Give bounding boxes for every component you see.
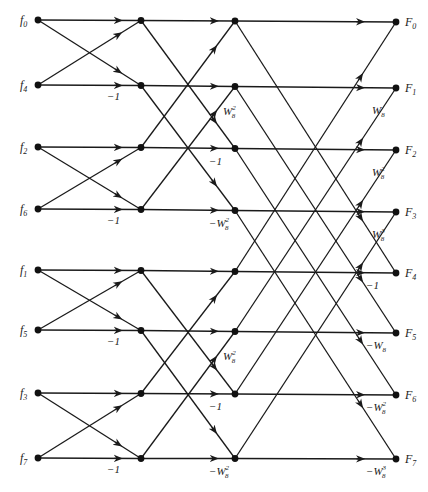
- edge-s1-0-0: [38, 20, 141, 21]
- output-label: F3: [404, 205, 416, 221]
- edge-s2-1-3-arrow: [212, 180, 214, 183]
- output-label: F4: [404, 266, 416, 282]
- node-s1-r4: [138, 267, 145, 274]
- edge-s3-3-7-arrow: [358, 401, 360, 404]
- edge-s3-5-1-arrow: [358, 142, 360, 145]
- edge-s3-3-3: [235, 211, 396, 213]
- node-s2-r3: [232, 207, 239, 214]
- node-s3-r4: [393, 270, 400, 277]
- weight-stage3: −1: [366, 279, 379, 291]
- edge-s1-5-4-arrow: [115, 284, 118, 286]
- node-s3-r5: [393, 330, 400, 337]
- input-label: f0: [20, 13, 27, 29]
- labels: f0f4f2f6f1f5f3f7F0F1F2F3F4F5F6F7−1−1−1−1…: [20, 13, 417, 480]
- weight-stage3: −W8: [366, 339, 387, 354]
- input-label: f1: [20, 263, 27, 279]
- node-s0-r2: [35, 144, 42, 151]
- node-s1-r5: [138, 327, 145, 334]
- edge-s2-7-5-arrow: [212, 359, 214, 362]
- edge-s3-6-6: [235, 394, 396, 395]
- edge-s1-5-5: [38, 330, 141, 331]
- node-s2-r0: [232, 18, 239, 25]
- weight-stage1: −1: [107, 90, 120, 102]
- node-s3-r3: [393, 209, 400, 216]
- edge-s2-6-4-arrow: [212, 298, 214, 301]
- output-label: F1: [404, 81, 416, 97]
- weight-stage1: −1: [107, 214, 120, 226]
- node-s2-r1: [232, 83, 239, 90]
- node-s1-r2: [138, 144, 145, 151]
- node-s2-r5: [232, 328, 239, 335]
- edge-s1-2-2: [38, 147, 141, 148]
- edge-s1-4-5-arrow: [115, 315, 118, 317]
- weight-stage3-cross: W38: [372, 227, 385, 243]
- edge-s1-6-6: [38, 393, 141, 394]
- edge-s3-2-2: [235, 149, 396, 151]
- weight-stage2: −W28: [209, 216, 230, 232]
- weight-stage1: −1: [107, 463, 120, 475]
- node-s3-r0: [393, 19, 400, 26]
- node-s2-r6: [232, 391, 239, 398]
- output-label: F2: [404, 143, 416, 159]
- weight-stage2-cross: W28: [223, 349, 236, 365]
- edge-s2-5-7-arrow: [212, 427, 214, 430]
- node-s3-r7: [393, 456, 400, 463]
- edge-s2-3-1-arrow: [212, 114, 214, 117]
- edge-s3-1-1: [235, 87, 396, 89]
- edge-s3-7-3-arrow: [358, 266, 360, 269]
- edge-s1-7-7: [38, 458, 141, 459]
- input-label: f2: [20, 140, 27, 156]
- node-s2-r2: [232, 145, 239, 152]
- edge-s3-0-0: [235, 21, 396, 22]
- edge-s1-7-6-arrow: [115, 408, 118, 410]
- output-label: F0: [404, 15, 416, 31]
- node-s0-r1: [35, 82, 42, 89]
- edge-s3-6-2-arrow: [358, 204, 360, 207]
- node-s3-r6: [393, 392, 400, 399]
- node-s1-r1: [138, 82, 145, 89]
- node-s1-r0: [138, 17, 145, 24]
- input-label: f6: [20, 202, 27, 218]
- node-s0-r7: [35, 455, 42, 462]
- node-s3-r2: [393, 147, 400, 154]
- edge-s3-5-5: [235, 332, 396, 334]
- nodes: [35, 17, 400, 463]
- edge-s1-6-7-arrow: [115, 442, 118, 444]
- edge-s2-0-2-arrow: [212, 117, 214, 120]
- input-label: f3: [20, 386, 27, 402]
- weight-stage2-cross: W28: [223, 104, 236, 120]
- weight-stage2: −1: [209, 155, 222, 167]
- input-label: f7: [20, 451, 28, 467]
- edge-s1-1-0-arrow: [115, 35, 118, 37]
- edge-s1-3-2-arrow: [115, 161, 118, 163]
- weight-stage3: −W38: [366, 464, 387, 480]
- edge-s2-0-0: [141, 21, 235, 22]
- edge-s1-1-1: [38, 85, 141, 86]
- edge-s2-4-4: [141, 271, 235, 272]
- edge-s1-4-4: [38, 270, 141, 271]
- edge-s2-1-1: [141, 86, 235, 87]
- edge-s1-2-3-arrow: [115, 194, 118, 196]
- edge-s2-2-0-arrow: [212, 49, 214, 52]
- edge-s3-0-4-arrow: [358, 214, 360, 217]
- edge-s3-1-5-arrow: [358, 275, 360, 278]
- edge-s2-4-6-arrow: [212, 364, 214, 367]
- node-s1-r7: [138, 455, 145, 462]
- input-label: f4: [20, 78, 27, 94]
- node-s1-r6: [138, 390, 145, 397]
- edge-s3-7-7: [235, 459, 396, 460]
- weight-stage2: −1: [209, 400, 222, 412]
- node-s1-r3: [138, 206, 145, 213]
- node-s0-r4: [35, 267, 42, 274]
- weight-stage3: −W28: [366, 400, 387, 416]
- edge-s2-5-5: [141, 331, 235, 332]
- node-s0-r3: [35, 206, 42, 213]
- node-s0-r0: [35, 17, 42, 24]
- weight-stage1: −1: [107, 335, 120, 347]
- node-s2-r7: [232, 455, 239, 462]
- weight-stage2: −W28: [209, 464, 230, 480]
- fft-butterfly-diagram: f0f4f2f6f1f5f3f7F0F1F2F3F4F5F6F7−1−1−1−1…: [0, 0, 428, 492]
- edge-s1-0-1-arrow: [115, 69, 118, 71]
- node-s0-r6: [35, 390, 42, 397]
- input-label: f5: [20, 323, 27, 339]
